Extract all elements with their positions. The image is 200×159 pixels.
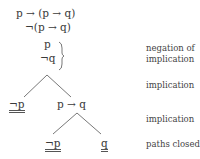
implication-node: p → q [57,98,86,110]
root-formula: p → (p → q) [16,7,75,19]
label-implication-2: implication [146,114,194,124]
label-negation-implication: implication [146,54,194,64]
label-negation-of: negation of [146,43,195,53]
closed-q: q [101,137,108,152]
label-implication-1: implication [146,80,194,90]
closed-not-p-left: ¬p [9,98,25,113]
label-paths-closed: paths closed [146,139,200,149]
formula-p: p [44,38,51,50]
brace-icon [59,42,64,70]
closed-not-p-right: ¬p [45,137,61,152]
formula-not-q: ¬q [40,52,56,64]
negated-conclusion: ¬(p → q) [25,21,71,33]
